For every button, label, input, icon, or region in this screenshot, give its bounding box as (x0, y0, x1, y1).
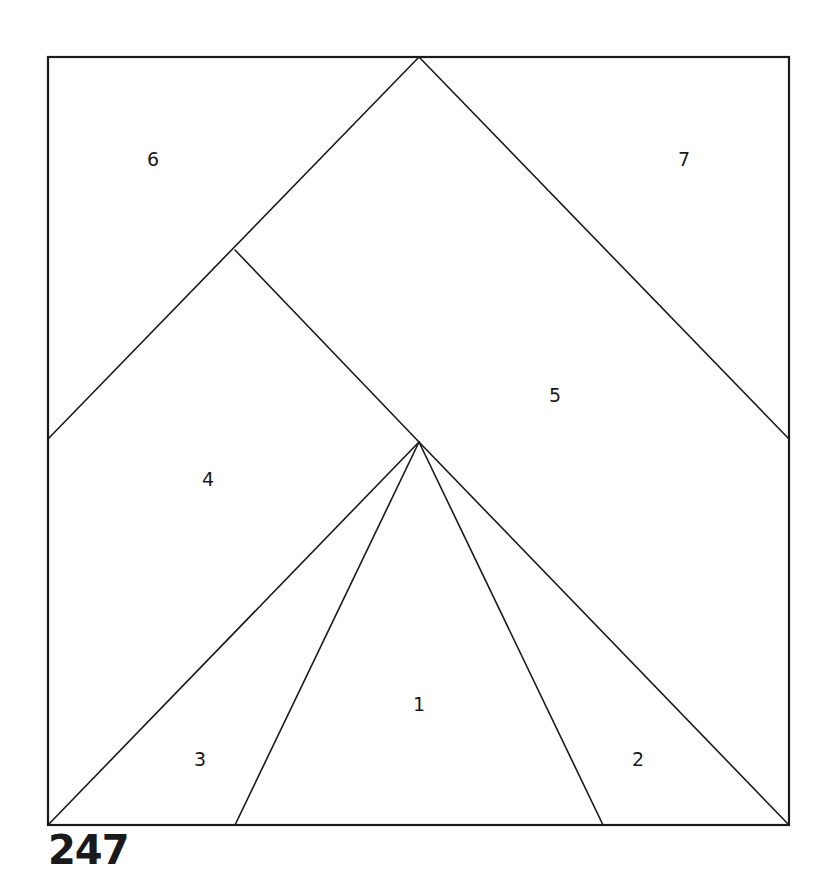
section-label-7: 7 (678, 148, 690, 170)
seam-center-to-bottom-right (419, 442, 789, 825)
section-label-3: 3 (194, 748, 206, 770)
seam-apex-to-right-edge (419, 57, 789, 439)
paper-piecing-diagram: 1 2 3 4 5 6 7 (0, 0, 835, 878)
seam-apex-to-left-edge (48, 57, 419, 439)
section-label-5: 5 (549, 384, 561, 406)
section-label-4: 4 (202, 468, 214, 490)
section-label-2: 2 (632, 748, 644, 770)
seam-center-to-bottom-left (48, 442, 419, 825)
section-label-1: 1 (413, 693, 425, 715)
seam-junction-to-center (235, 250, 419, 442)
seam-center-to-bottom-inner-right (419, 442, 603, 825)
section-label-6: 6 (147, 148, 159, 170)
seam-center-to-bottom-inner-left (235, 442, 419, 825)
block-number: 247 (48, 826, 129, 874)
